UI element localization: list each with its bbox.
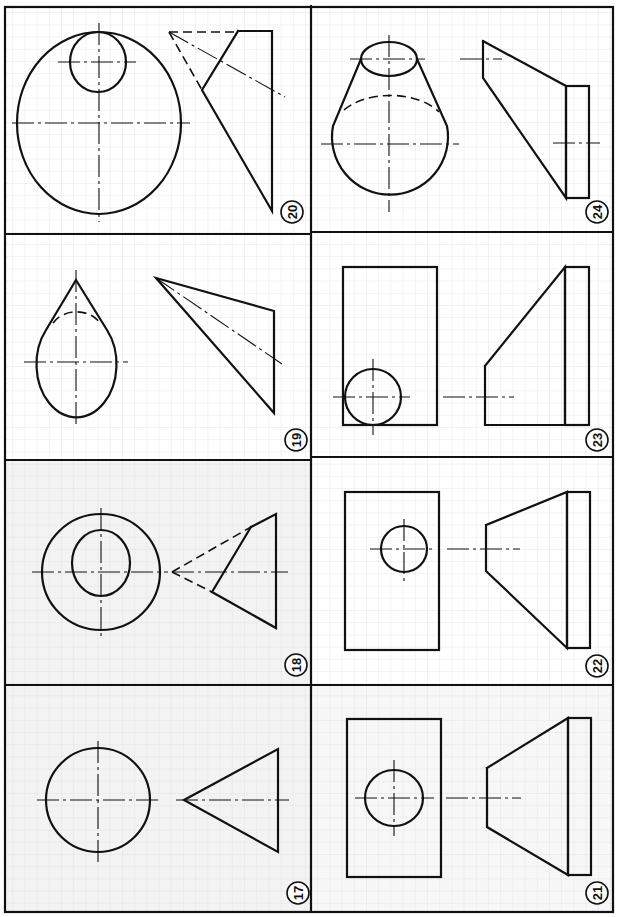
panel-label-19: 19 xyxy=(289,433,304,447)
drawing-sheet: 20 24 19 23 xyxy=(0,0,620,917)
panel-label-17: 17 xyxy=(291,886,306,900)
panel-label-24: 24 xyxy=(590,204,605,219)
panel-label-20: 20 xyxy=(285,205,300,219)
panel-label-18: 18 xyxy=(289,658,304,672)
panel-label-21: 21 xyxy=(590,886,605,900)
panel-label-23: 23 xyxy=(590,433,605,447)
panel-label-22: 22 xyxy=(590,659,605,673)
grid-paper xyxy=(5,5,614,912)
